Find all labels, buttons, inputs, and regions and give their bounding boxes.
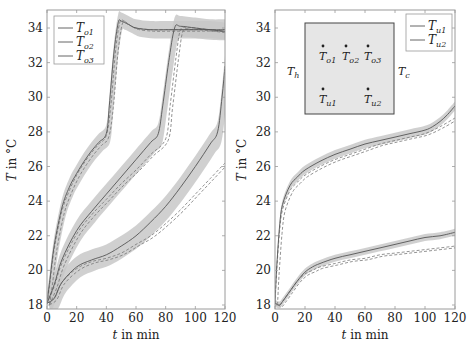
simulated-line: [278, 248, 458, 307]
y-axis-label: T in °C: [235, 139, 249, 181]
x-tick-label: 60: [357, 311, 372, 325]
x-tick-label: 40: [327, 311, 342, 325]
x-tick-label: 120: [214, 311, 237, 325]
y-tick-label: 22: [28, 229, 43, 243]
y-tick-label: 24: [256, 194, 272, 208]
x-tick-label: 60: [128, 311, 143, 325]
sensor-dot: [367, 88, 370, 91]
y-tick-label: 30: [256, 90, 271, 104]
y-tick-label: 34: [28, 21, 44, 35]
sensor-dot: [345, 45, 348, 48]
legend: Tu1Tu2: [406, 14, 452, 51]
y-tick-label: 18: [28, 298, 43, 312]
sensor-dot: [367, 45, 370, 48]
x-tick-label: 120: [444, 311, 467, 325]
plot-left: 020406080100120182022242628303234t in mi…: [5, 10, 236, 342]
y-tick-label: 34: [256, 21, 272, 35]
x-axis-label: t in min: [342, 328, 389, 342]
chart-canvas: 020406080100120182022242628303234t in mi…: [0, 0, 476, 356]
y-tick-label: 20: [28, 263, 43, 277]
y-tick-label: 18: [256, 298, 271, 312]
x-tick-label: 20: [69, 311, 84, 325]
y-tick-label: 30: [28, 90, 43, 104]
x-axis-label: t in min: [113, 328, 160, 342]
hot-side-label: Th: [287, 65, 300, 80]
x-tick-label: 80: [158, 311, 173, 325]
x-tick-label: 0: [43, 311, 51, 325]
y-axis-label: T in °C: [5, 139, 19, 181]
cold-side-label: Tc: [398, 65, 410, 80]
x-tick-label: 0: [271, 311, 279, 325]
y-tick-label: 26: [28, 160, 43, 174]
x-tick-label: 100: [414, 311, 437, 325]
x-tick-label: 20: [297, 311, 312, 325]
y-tick-label: 28: [256, 125, 271, 139]
y-tick-label: 20: [256, 263, 271, 277]
plot-right: 020406080100120182022242628303234t in mi…: [235, 10, 466, 342]
x-tick-label: 100: [184, 311, 207, 325]
x-tick-label: 80: [387, 311, 402, 325]
sensor-dot: [322, 88, 325, 91]
measured-line-tu2: [275, 232, 455, 305]
plot-area: [275, 102, 458, 309]
y-tick-label: 28: [28, 125, 43, 139]
legend: To1To2To3: [54, 16, 104, 65]
y-tick-label: 32: [28, 56, 43, 70]
sensor-dot: [322, 45, 325, 48]
y-tick-label: 32: [256, 56, 271, 70]
y-tick-label: 22: [256, 229, 271, 243]
y-tick-label: 24: [28, 194, 44, 208]
sensor-layout-inset: ThTcTo1To2To3Tu1Tu2: [287, 23, 410, 114]
y-tick-label: 26: [256, 160, 271, 174]
x-tick-label: 40: [99, 311, 114, 325]
uncertainty-band: [275, 229, 455, 309]
